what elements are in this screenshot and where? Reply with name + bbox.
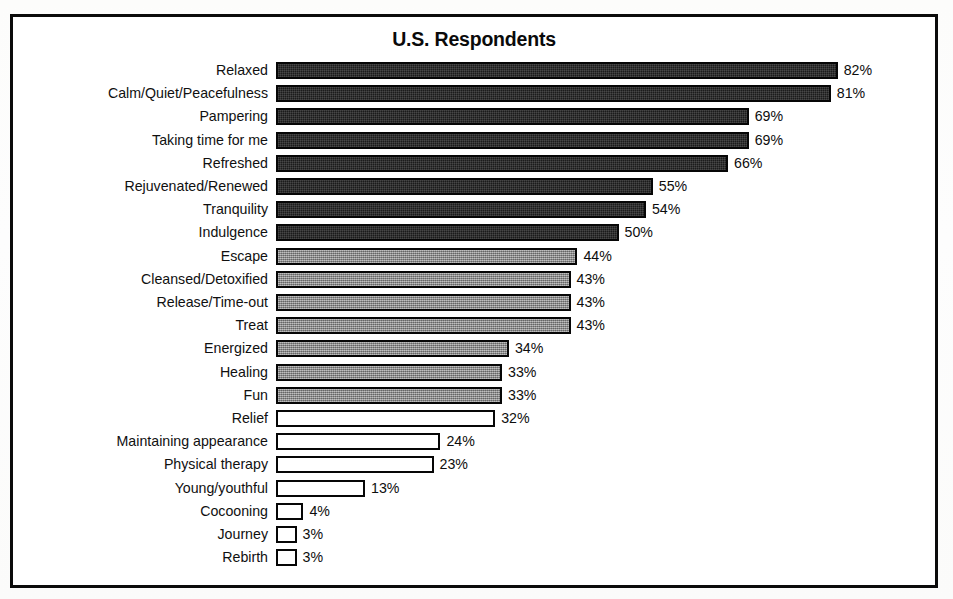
bar-value-label: 33% [508, 364, 536, 381]
bar [276, 410, 495, 427]
bar-category-label: Taking time for me [28, 132, 268, 149]
bar-row: Cleansed/Detoxified43% [13, 271, 935, 294]
bar-category-label: Young/youthful [28, 480, 268, 497]
bar-category-label: Physical therapy [28, 456, 268, 473]
bar-value-label: 24% [446, 433, 474, 450]
bar-category-label: Escape [28, 248, 268, 265]
bar-value-label: 3% [303, 526, 324, 543]
bar-category-label: Pampering [28, 108, 268, 125]
bar [276, 62, 838, 79]
bar [276, 526, 297, 543]
bar-category-label: Relief [28, 410, 268, 427]
bar-row: Taking time for me69% [13, 132, 935, 155]
bar [276, 503, 303, 520]
bar [276, 456, 434, 473]
bar-row: Release/Time-out43% [13, 294, 935, 317]
bar [276, 317, 571, 334]
bar-row: Rebirth3% [13, 549, 935, 572]
bar-category-label: Release/Time-out [28, 294, 268, 311]
bar-category-label: Tranquility [28, 201, 268, 218]
bar-row: Physical therapy23% [13, 456, 935, 479]
bar [276, 132, 749, 149]
bar-value-label: 23% [440, 456, 468, 473]
bar-row: Cocooning4% [13, 503, 935, 526]
bar-category-label: Relaxed [28, 62, 268, 79]
bar-value-label: 44% [583, 248, 611, 265]
bar-value-label: 32% [501, 410, 529, 427]
bar [276, 85, 831, 102]
bar-category-label: Healing [28, 364, 268, 381]
bar-value-label: 81% [837, 85, 865, 102]
bar-category-label: Cocooning [28, 503, 268, 520]
bar-value-label: 55% [659, 178, 687, 195]
bar-category-label: Energized [28, 340, 268, 357]
bar-category-label: Refreshed [28, 155, 268, 172]
bar-value-label: 4% [309, 503, 330, 520]
bar-value-label: 13% [371, 480, 399, 497]
bar [276, 108, 749, 125]
bar-category-label: Indulgence [28, 224, 268, 241]
bar-value-label: 69% [755, 108, 783, 125]
bar [276, 364, 502, 381]
bar-row: Rejuvenated/Renewed55% [13, 178, 935, 201]
bar-chart-plot-area: Relaxed82%Calm/Quiet/Peacefulness81%Pamp… [13, 62, 935, 582]
bar-row: Indulgence50% [13, 224, 935, 247]
chart-frame: U.S. Respondents Relaxed82%Calm/Quiet/Pe… [10, 14, 938, 588]
bar-value-label: 3% [303, 549, 324, 566]
bar-row: Refreshed66% [13, 155, 935, 178]
scanned-page: U.S. Respondents Relaxed82%Calm/Quiet/Pe… [0, 0, 953, 599]
bar [276, 155, 728, 172]
bar-row: Pampering69% [13, 108, 935, 131]
bar-category-label: Rejuvenated/Renewed [28, 178, 268, 195]
bar-row: Relaxed82% [13, 62, 935, 85]
bar-value-label: 43% [577, 271, 605, 288]
bar-value-label: 69% [755, 132, 783, 149]
bar-value-label: 50% [625, 224, 653, 241]
bar-row: Calm/Quiet/Peacefulness81% [13, 85, 935, 108]
bar-category-label: Journey [28, 526, 268, 543]
bar-row: Maintaining appearance24% [13, 433, 935, 456]
bar [276, 224, 619, 241]
bar-row: Relief32% [13, 410, 935, 433]
bar-row: Tranquility54% [13, 201, 935, 224]
bar-row: Treat43% [13, 317, 935, 340]
bar [276, 201, 646, 218]
bar-category-label: Treat [28, 317, 268, 334]
bar-value-label: 34% [515, 340, 543, 357]
bar-category-label: Rebirth [28, 549, 268, 566]
bar-row: Journey3% [13, 526, 935, 549]
bar [276, 248, 577, 265]
bar-row: Healing33% [13, 364, 935, 387]
bar-row: Energized34% [13, 340, 935, 363]
bar-category-label: Cleansed/Detoxified [28, 271, 268, 288]
bar-row: Escape44% [13, 248, 935, 271]
bar [276, 271, 571, 288]
bar-row: Young/youthful13% [13, 480, 935, 503]
bar [276, 387, 502, 404]
bar [276, 433, 440, 450]
bar-value-label: 43% [577, 294, 605, 311]
bar-value-label: 43% [577, 317, 605, 334]
bar [276, 294, 571, 311]
bar-value-label: 54% [652, 201, 680, 218]
bar [276, 340, 509, 357]
bar-category-label: Maintaining appearance [28, 433, 268, 450]
bar [276, 549, 297, 566]
chart-title: U.S. Respondents [13, 28, 935, 51]
bar-category-label: Fun [28, 387, 268, 404]
bar-value-label: 33% [508, 387, 536, 404]
bar-row: Fun33% [13, 387, 935, 410]
bar-category-label: Calm/Quiet/Peacefulness [28, 85, 268, 102]
bar [276, 178, 653, 195]
bar [276, 480, 365, 497]
bar-value-label: 82% [844, 62, 872, 79]
bar-value-label: 66% [734, 155, 762, 172]
